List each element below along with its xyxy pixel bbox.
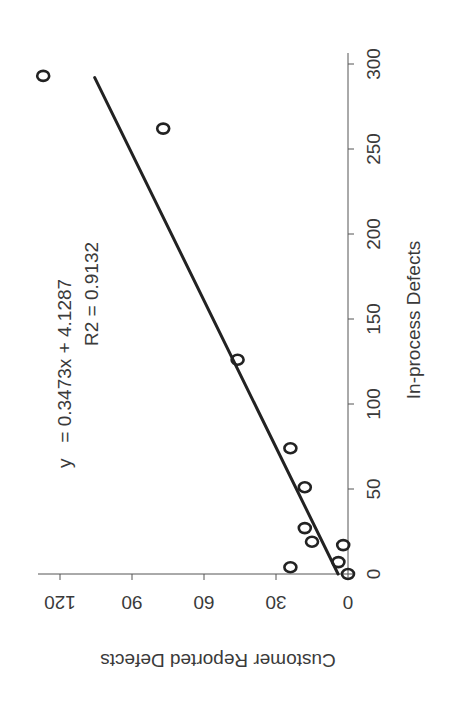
x-tick-label: 150 (363, 303, 384, 335)
y-tick-label: 0 (343, 592, 354, 613)
data-point (332, 557, 344, 567)
data-point (306, 537, 318, 547)
x-tick-label: 300 (363, 48, 384, 80)
r-squared-label: R2 = 0.9132 (81, 242, 102, 346)
y-tick-label: 30 (265, 592, 286, 613)
y-axis-label: Customer Reported Defects (100, 650, 336, 671)
scatter-chart: 0501001502002503000306090120 In-process … (0, 0, 456, 706)
x-axis-label: In-process Defects (403, 241, 424, 399)
data-point (37, 71, 49, 81)
x-tick-label: 250 (363, 133, 384, 165)
data-point (299, 482, 311, 492)
data-point (337, 540, 349, 550)
x-tick-label: 100 (363, 388, 384, 420)
y-tick-label: 90 (121, 592, 142, 613)
y-tick-label: 120 (44, 592, 76, 613)
x-tick-label: 0 (363, 569, 384, 580)
y-tick-label: 60 (193, 592, 214, 613)
data-point (299, 523, 311, 533)
equation-label: y = 0.3473x + 4.1287 (54, 279, 75, 468)
data-point (284, 562, 296, 572)
data-point (284, 443, 296, 453)
x-tick-label: 50 (363, 478, 384, 499)
regression-line (95, 78, 338, 574)
x-tick-label: 200 (363, 218, 384, 250)
data-point (157, 124, 169, 134)
